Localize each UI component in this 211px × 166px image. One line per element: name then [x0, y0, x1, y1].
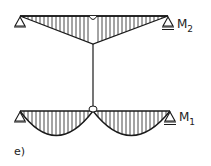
top-moment-label: M2 — [177, 17, 193, 34]
top-right-support-icon — [162, 17, 174, 30]
top-left-support-icon — [14, 17, 26, 27]
top-moment-diagram — [20, 16, 168, 46]
structural-moment-diagram: M2 — [0, 0, 211, 166]
figure-label: e) — [14, 145, 25, 158]
bottom-moment-diagram — [20, 106, 170, 145]
bottom-moment-label: M1 — [179, 110, 195, 127]
